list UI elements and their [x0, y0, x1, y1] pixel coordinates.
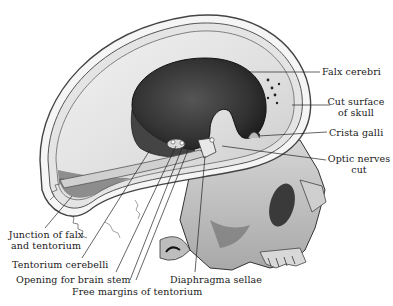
label-junction: Junction of falx and tentorium — [6, 229, 86, 251]
label-cut-surface-line1: Cut surface — [326, 96, 386, 107]
label-junction-line1: Junction of falx — [6, 229, 86, 240]
label-free-margins: Free margins of tentorium — [72, 286, 202, 297]
label-cut-surface: Cut surface of skull — [326, 96, 386, 118]
label-optic-nerves: Optic nerves cut — [326, 153, 392, 175]
label-optic-nerves-line2: cut — [326, 164, 392, 175]
label-tentorium-cerebelli: Tentorium cerebelli — [12, 259, 108, 270]
label-optic-nerves-line1: Optic nerves — [326, 153, 392, 164]
label-junction-line2: and tentorium — [6, 240, 86, 251]
label-crista-galli: Crista galli — [329, 127, 383, 138]
label-opening-brain-stem: Opening for brain stem — [16, 274, 131, 285]
label-diaphragma-sellae: Diaphragma sellae — [170, 274, 262, 285]
label-cut-surface-line2: of skull — [326, 107, 386, 118]
label-falx-cerebri: Falx cerebri — [322, 66, 381, 77]
